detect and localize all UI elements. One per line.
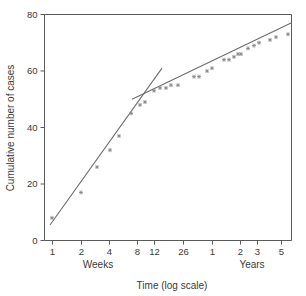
data-point-marker xyxy=(252,44,256,48)
x-tick-label: 4 xyxy=(107,246,112,257)
x-tick-label: 1 xyxy=(210,246,215,257)
data-point-marker xyxy=(176,83,180,87)
data-point-marker xyxy=(210,66,214,70)
plot-frame xyxy=(45,15,292,241)
x-tick-label: 3 xyxy=(255,246,260,257)
data-point-marker xyxy=(205,69,209,73)
x-tick-label: 2 xyxy=(79,246,84,257)
data-point-marker xyxy=(246,46,250,50)
x-group-label-weeks: Weeks xyxy=(83,259,113,270)
x-axis-title: Time (log scale) xyxy=(137,280,208,291)
data-point-marker xyxy=(164,86,168,90)
x-tick-label: 5 xyxy=(279,246,284,257)
early-steep-fit xyxy=(50,68,162,225)
data-points xyxy=(50,32,290,220)
y-axis-title: Cumulative number of cases xyxy=(5,65,16,192)
data-point-marker xyxy=(274,35,278,39)
x-tick-label: 2 xyxy=(238,246,243,257)
data-point-marker xyxy=(143,100,147,104)
data-point-marker xyxy=(169,83,173,87)
data-point-marker xyxy=(222,58,226,62)
data-point-marker xyxy=(95,165,99,169)
y-tick-label: 20 xyxy=(27,178,38,189)
x-tick-label: 1 xyxy=(50,246,55,257)
data-point-marker xyxy=(129,111,133,115)
y-tick-label: 80 xyxy=(27,9,38,20)
y-tick-label: 60 xyxy=(27,65,38,76)
x-tick-label: 26 xyxy=(178,246,189,257)
data-point-marker xyxy=(257,41,261,45)
x-axis: 124812261235 xyxy=(50,241,284,257)
data-point-marker xyxy=(152,89,156,93)
late-shallow-fit xyxy=(132,23,291,99)
x-tick-label: 12 xyxy=(149,246,160,257)
x-tick-label: 8 xyxy=(135,246,140,257)
data-point-marker xyxy=(239,52,243,56)
data-point-marker xyxy=(197,75,201,79)
data-point-marker xyxy=(108,148,112,152)
data-point-marker xyxy=(192,75,196,79)
scatter-plot-svg: 020406080 124812261235 Weeks Years Time … xyxy=(0,0,306,296)
y-axis: 020406080 xyxy=(27,9,45,246)
data-point-marker xyxy=(138,103,142,107)
y-tick-label: 40 xyxy=(27,122,38,133)
data-point-marker xyxy=(227,58,231,62)
data-point-marker xyxy=(232,55,236,59)
data-point-marker xyxy=(268,38,272,42)
chart-figure: 020406080 124812261235 Weeks Years Time … xyxy=(0,0,306,296)
x-group-label-years: Years xyxy=(239,259,264,270)
data-point-marker xyxy=(79,190,83,194)
data-point-marker xyxy=(50,216,54,220)
fitted-lines xyxy=(50,23,291,225)
y-tick-label: 0 xyxy=(32,235,37,246)
data-point-marker xyxy=(286,32,290,36)
data-point-marker xyxy=(117,134,121,138)
data-point-marker xyxy=(158,86,162,90)
